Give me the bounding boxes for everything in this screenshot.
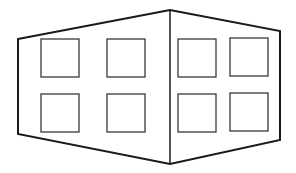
window-right-bottom-2 <box>230 93 268 131</box>
window-right-top-1 <box>178 39 216 77</box>
building-outline <box>18 10 280 164</box>
window-left-bottom-2 <box>107 94 145 132</box>
window-left-top-1 <box>41 39 79 77</box>
window-left-top-2 <box>107 39 145 77</box>
window-right-bottom-1 <box>178 94 216 132</box>
window-left-bottom-1 <box>41 94 79 132</box>
windows-group <box>41 38 268 132</box>
building-diagram <box>0 0 296 173</box>
window-right-top-2 <box>230 38 268 76</box>
